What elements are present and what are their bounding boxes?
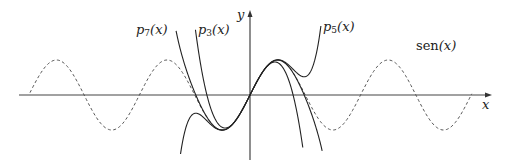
y-axis-arrow-icon xyxy=(248,10,253,17)
y-axis-label: y xyxy=(237,8,244,21)
p5-label: p5(x) xyxy=(323,20,355,35)
p7-label: p7(x) xyxy=(136,23,168,38)
sine-label: sen(x) xyxy=(416,39,456,52)
x-axis-label: x xyxy=(482,98,489,111)
taylor-p3-curve xyxy=(195,30,302,148)
p3-label: p3(x) xyxy=(198,23,230,38)
function-plot xyxy=(0,0,509,162)
